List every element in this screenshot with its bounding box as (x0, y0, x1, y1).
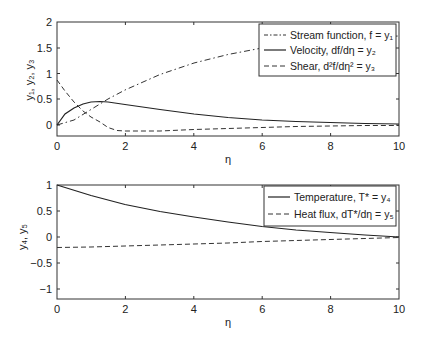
top-xtick-1: 2 (122, 140, 128, 152)
top-chart: 0 0.5 1 1.5 2 0 2 4 6 8 10 η y₁, y₂, y₃ … (23, 16, 405, 165)
bottom-xlabel: η (225, 316, 231, 328)
top-xlabel: η (225, 153, 231, 165)
velocity-line (57, 102, 399, 126)
legend-temperature: Temperature, T* = y₄ (294, 191, 391, 203)
top-legend: Stream function, f = y₁ Velocity, df/dη … (259, 24, 396, 76)
bottom-xtick-0: 0 (54, 303, 60, 315)
bottom-xtick-1: 2 (122, 303, 128, 315)
top-ytick-3: 1.5 (37, 42, 52, 54)
top-ylabel: y₁, y₂, y₃ (23, 59, 35, 100)
legend-shear: Shear, d²f/dη² = y₃ (290, 60, 375, 72)
bottom-xtick-3: 6 (259, 303, 265, 315)
top-xtick-2: 4 (191, 140, 197, 152)
bottom-ytick-1: 0.5 (37, 205, 52, 217)
bottom-ytick-4: −1 (39, 283, 52, 295)
top-xtick-3: 6 (259, 140, 265, 152)
top-xtick-0: 0 (54, 140, 60, 152)
bottom-ytick-2: 0 (46, 231, 52, 243)
bottom-ytick-0: 1 (46, 179, 52, 191)
top-xtick-4: 8 (328, 140, 334, 152)
top-xtick-5: 10 (393, 140, 405, 152)
top-ytick-2: 1 (46, 68, 52, 80)
top-ytick-4: 2 (46, 16, 52, 28)
legend-velocity: Velocity, df/dη = y₂ (290, 44, 376, 56)
heat-flux-line (57, 238, 399, 248)
bottom-chart: 1 0.5 0 −0.5 −1 0 2 4 6 8 10 η y₄, y₅ Te… (16, 179, 405, 328)
bottom-legend: Temperature, T* = y₄ Heat flux, dT*/dη =… (264, 186, 396, 226)
bottom-ylabel: y₄, y₅ (16, 224, 28, 250)
bottom-xtick-2: 4 (191, 303, 197, 315)
top-ytick-1: 0.5 (37, 93, 52, 105)
top-ytick-0: 0 (46, 119, 52, 131)
figure: 0 0.5 1 1.5 2 0 2 4 6 8 10 η y₁, y₂, y₃ … (0, 0, 424, 347)
legend-heat-flux: Heat flux, dT*/dη = y₅ (294, 208, 394, 220)
bottom-xtick-5: 10 (393, 303, 405, 315)
bottom-xtick-4: 8 (328, 303, 334, 315)
bottom-ytick-3: −0.5 (30, 257, 52, 269)
legend-stream: Stream function, f = y₁ (290, 29, 394, 41)
